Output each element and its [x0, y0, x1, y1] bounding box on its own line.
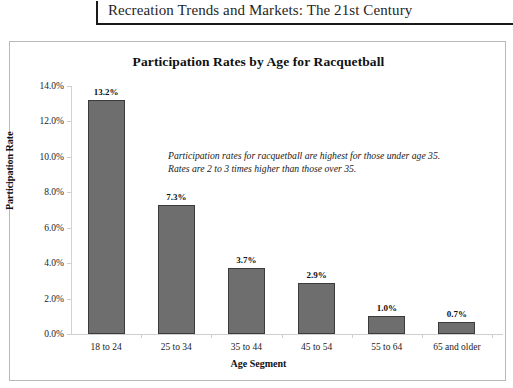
bar-value-label: 13.2% [94, 87, 119, 97]
y-tick-label: 10.0% [24, 152, 64, 162]
page-header-band: Recreation Trends and Markets: The 21st … [96, 1, 513, 25]
annotation-line-1: Participation rates for racquetball are … [168, 150, 440, 163]
chart-container: Participation Rates by Age for Racquetba… [9, 41, 506, 381]
plot-area [71, 86, 492, 334]
bar [158, 205, 195, 334]
x-tick-mark [352, 334, 353, 338]
x-tick-label: 65 and older [433, 342, 481, 352]
y-tick-label: 6.0% [24, 223, 64, 233]
x-tick-label: 45 to 54 [301, 342, 332, 352]
x-tick-label: 25 to 34 [161, 342, 192, 352]
x-tick-mark [422, 334, 423, 338]
bar [88, 100, 125, 334]
bar [228, 268, 265, 334]
bar-value-label: 0.7% [447, 309, 467, 319]
bar-value-label: 3.7% [236, 255, 256, 265]
y-tick-label: 2.0% [24, 294, 64, 304]
y-tick-mark [67, 334, 71, 335]
bar [438, 322, 475, 334]
annotation-line-2: Rates are 2 to 3 times higher than those… [168, 163, 440, 176]
bar-value-label: 1.0% [377, 303, 397, 313]
y-axis-title: Participation Rate [4, 131, 15, 210]
bar [298, 283, 335, 334]
x-tick-mark [282, 334, 283, 338]
x-tick-label: 18 to 24 [91, 342, 122, 352]
chart-title: Participation Rates by Age for Racquetba… [10, 54, 507, 70]
bar [368, 316, 405, 334]
bar-value-label: 7.3% [166, 192, 186, 202]
x-tick-mark [211, 334, 212, 338]
x-axis-title: Age Segment [10, 358, 507, 369]
chart-annotation: Participation rates for racquetball are … [168, 150, 440, 176]
page-title: Recreation Trends and Markets: The 21st … [108, 2, 412, 19]
x-tick-label: 35 to 44 [231, 342, 262, 352]
y-tick-label: 14.0% [24, 81, 64, 91]
y-tick-label: 4.0% [24, 258, 64, 268]
y-tick-label: 12.0% [24, 116, 64, 126]
y-tick-label: 0.0% [24, 329, 64, 339]
x-tick-mark [492, 334, 493, 338]
x-tick-label: 55 to 64 [371, 342, 402, 352]
bar-value-label: 2.9% [306, 270, 326, 280]
y-tick-label: 8.0% [24, 187, 64, 197]
x-tick-mark [141, 334, 142, 338]
x-axis-line [71, 334, 503, 335]
